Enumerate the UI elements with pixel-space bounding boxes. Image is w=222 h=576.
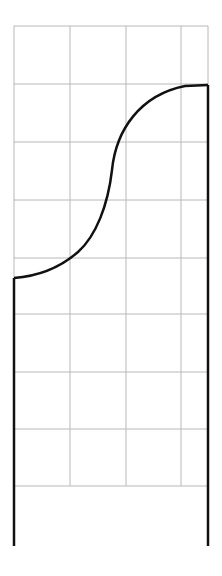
profile-outline <box>14 85 208 546</box>
ogee-curve <box>14 85 208 278</box>
ogee-profile-diagram <box>0 0 222 576</box>
grid-lines <box>14 26 208 486</box>
